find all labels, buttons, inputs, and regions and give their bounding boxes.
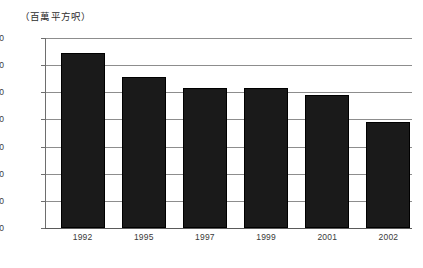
x-axis-tick-label: 2002 (358, 233, 418, 242)
bar (305, 95, 349, 228)
gridline (45, 228, 412, 229)
y-axis-tick (41, 38, 45, 39)
bar (183, 88, 227, 228)
x-axis-tick-label: 1997 (175, 233, 235, 242)
y-axis-tick-label: 6.0 (0, 143, 4, 152)
y-axis-tick (41, 228, 45, 229)
chart-unit-title: （百萬平方呎） (20, 12, 91, 22)
x-axis-tick-label: 2001 (297, 233, 357, 242)
y-axis-tick-label: 10.0 (0, 88, 4, 97)
bar-chart-figure: （百萬平方呎） 14.012.010.08.06.04.02.00.0 1992… (0, 0, 423, 268)
plot-area (45, 38, 412, 228)
y-axis-tick-label: 4.0 (0, 170, 4, 179)
y-axis-tick-label: 14.0 (0, 34, 4, 43)
y-axis-tick-label: 0.0 (0, 224, 4, 233)
bar (122, 77, 166, 228)
y-axis-tick-label: 8.0 (0, 115, 4, 124)
x-axis-tick-label: 1999 (236, 233, 296, 242)
y-axis-tick (41, 147, 45, 148)
y-axis-tick (41, 201, 45, 202)
x-axis-tick-label: 1992 (53, 233, 113, 242)
y-axis-tick (41, 174, 45, 175)
y-axis-tick-label: 12.0 (0, 61, 4, 70)
bar (61, 53, 105, 228)
y-axis-tick (41, 65, 45, 66)
bar (366, 122, 410, 228)
y-axis-tick (41, 92, 45, 93)
x-axis-tick-label: 1995 (114, 233, 174, 242)
y-axis-line (45, 38, 46, 228)
gridline (45, 38, 412, 39)
bar (244, 88, 288, 228)
y-axis-tick (41, 119, 45, 120)
y-axis-tick-label: 2.0 (0, 197, 4, 206)
